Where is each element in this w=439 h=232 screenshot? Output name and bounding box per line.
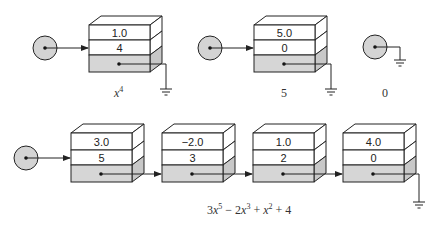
node-coefficient: 1.0	[112, 27, 127, 39]
list-x4: 1.0 4 x4	[33, 16, 172, 100]
polynomial-linked-list-diagram: 1.0 4 x4 5.0 0	[0, 0, 439, 232]
node-exponent: 5	[98, 152, 104, 164]
ground-null-icon	[394, 60, 406, 66]
node-exponent: 0	[281, 42, 287, 54]
list-label: x4	[113, 85, 123, 100]
node-coefficient: −2.0	[182, 136, 204, 148]
head-pointer	[363, 35, 400, 60]
list-3x5-2x3-x2-4: 3.0 5 −2.0 3 1.0	[14, 124, 425, 217]
node-coefficient: 3.0	[94, 136, 109, 148]
node: 4.0 0	[343, 124, 419, 202]
head-pointer	[198, 36, 253, 60]
node: 1.0 4	[89, 16, 166, 89]
node: 3.0 5	[71, 124, 161, 182]
node-coefficient: 5.0	[277, 27, 292, 39]
list-0: 0	[363, 35, 406, 100]
list-label: 3x5 − 2x3 + x2 + 4	[207, 202, 291, 217]
head-pointer	[33, 36, 88, 60]
list-label: 5	[281, 86, 287, 100]
node-exponent: 0	[370, 152, 376, 164]
head-pointer	[14, 146, 70, 170]
list-5: 5.0 0 5	[198, 16, 337, 100]
ground-null-icon	[160, 89, 172, 95]
node-exponent: 2	[280, 152, 286, 164]
node-coefficient: 4.0	[366, 136, 381, 148]
ground-null-icon	[413, 202, 425, 208]
node-coefficient: 1.0	[276, 136, 291, 148]
node: 5.0 0	[254, 16, 331, 89]
list-label: 0	[382, 86, 388, 100]
ground-null-icon	[325, 89, 337, 95]
node-exponent: 3	[189, 152, 195, 164]
node: 1.0 2	[253, 124, 342, 182]
node-exponent: 4	[116, 42, 122, 54]
node: −2.0 3	[162, 124, 252, 182]
